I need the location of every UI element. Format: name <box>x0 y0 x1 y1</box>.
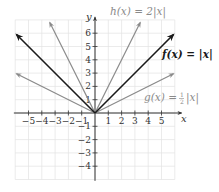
svg-text:|x|: |x| <box>186 91 199 105</box>
x-tick-label: 2 <box>119 116 125 126</box>
y-tick-label: −4 <box>78 161 92 171</box>
x-tick-label: −3 <box>48 116 62 126</box>
y-tick-label: −3 <box>78 148 92 158</box>
chart: −5−4−3−2−112345654321−1−2−3−4 x y h(x) =… <box>0 0 219 192</box>
x-tick-label: 4 <box>145 116 151 126</box>
y-tick-label: 4 <box>85 55 91 65</box>
x-axis-label: x <box>181 113 187 124</box>
y-tick-label: 3 <box>85 68 91 78</box>
y-tick-label: −2 <box>78 135 91 145</box>
svg-text:g(x) =: g(x) = <box>144 91 177 103</box>
x-tick-label: −4 <box>35 116 49 126</box>
svg-text:1: 1 <box>180 91 184 98</box>
y-tick-label: −1 <box>78 121 91 131</box>
y-axis-label: y <box>85 11 92 22</box>
svg-text:2: 2 <box>180 98 184 105</box>
x-tick-label: 3 <box>132 116 138 126</box>
x-tick-label: 5 <box>159 116 165 126</box>
h-function-label: h(x) = 2|x| <box>110 5 166 19</box>
y-tick-label: 6 <box>85 28 91 38</box>
y-tick-label: 2 <box>85 81 91 91</box>
x-tick-label: −5 <box>22 116 36 126</box>
f-function-label: f(x) = |x| <box>161 48 213 61</box>
y-tick-label: 5 <box>85 42 91 52</box>
x-tick-label: 1 <box>105 116 111 126</box>
g-function-label: g(x) = 1 2 |x| <box>144 91 199 105</box>
x-tick-label: −2 <box>62 116 75 126</box>
